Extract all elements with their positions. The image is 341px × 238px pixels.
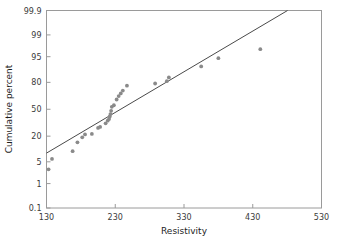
y-axis-title: Cumulative percent xyxy=(4,64,14,153)
chart-canvas: 0.115205080959999.9 130230330430530 Resi… xyxy=(0,0,341,238)
data-point xyxy=(80,135,84,139)
probability-plot: 0.115205080959999.9 130230330430530 Resi… xyxy=(0,0,341,238)
data-point xyxy=(199,65,203,69)
x-axis-ticks: 130230330430530 xyxy=(39,204,329,222)
data-point xyxy=(47,167,51,171)
data-point xyxy=(98,125,102,129)
data-point xyxy=(115,98,119,102)
data-point xyxy=(121,89,125,93)
data-point xyxy=(216,56,220,60)
data-point xyxy=(125,84,129,88)
plot-frame xyxy=(47,11,322,209)
x-tick-label: 230 xyxy=(108,213,123,222)
data-point xyxy=(71,149,75,153)
data-point xyxy=(76,140,80,144)
data-point xyxy=(109,112,113,116)
data-point xyxy=(167,76,171,80)
y-tick-label: 1 xyxy=(36,180,41,189)
data-point xyxy=(112,103,116,107)
data-points xyxy=(47,47,263,171)
x-axis-title: Resistivity xyxy=(161,226,208,236)
y-tick-label: 50 xyxy=(31,105,41,114)
data-point xyxy=(109,109,113,113)
y-tick-label: 95 xyxy=(31,53,41,62)
y-tick-label: 5 xyxy=(36,158,41,167)
y-tick-label: 99 xyxy=(31,31,41,40)
y-tick-label: 0.1 xyxy=(29,204,42,213)
y-tick-label: 20 xyxy=(31,132,41,141)
data-point xyxy=(165,79,169,83)
frame-rect xyxy=(47,11,322,209)
y-tick-label: 80 xyxy=(31,78,41,87)
x-tick-label: 430 xyxy=(245,213,260,222)
x-tick-label: 530 xyxy=(314,213,329,222)
data-point xyxy=(258,47,262,51)
data-point xyxy=(90,132,94,136)
data-point xyxy=(83,133,87,137)
data-point xyxy=(153,82,157,86)
data-point xyxy=(50,157,54,161)
x-tick-label: 330 xyxy=(176,213,191,222)
x-tick-label: 130 xyxy=(39,213,54,222)
y-tick-label: 99.9 xyxy=(24,7,42,16)
